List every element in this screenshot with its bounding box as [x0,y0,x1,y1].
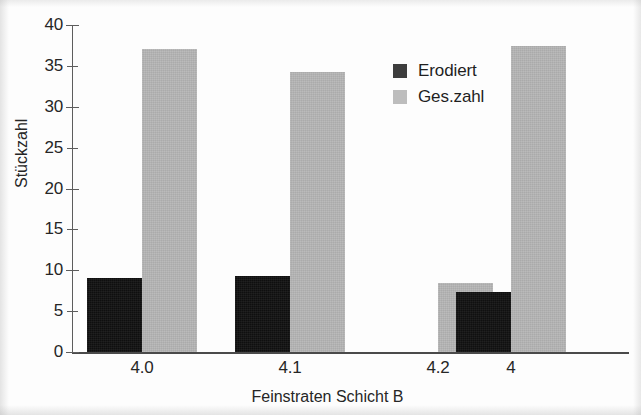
y-axis-tick-label: 30 [44,97,63,117]
y-axis-tick-label: 5 [54,301,63,321]
legend-label: Ges.zahl [418,87,484,107]
x-axis-title: Feinstraten Schicht B [0,388,641,406]
x-axis-tick-label: 4.2 [426,358,449,378]
x-axis-title-text: Feinstraten Schicht B [251,388,403,405]
plot-area [72,25,629,352]
legend-item-ges-zahl: Ges.zahl [393,84,484,110]
bar-ges-zahl-4.0 [142,49,197,352]
legend-label: Erodiert [418,61,477,81]
legend-swatch-dark [393,64,407,78]
legend-item-erodiert: Erodiert [393,58,484,84]
bar-erodiert-4.0 [87,278,142,352]
bar-erodiert-4.1 [235,276,290,352]
x-axis-tick-label: 4.0 [130,358,153,378]
bar-ges-zahl-4.1 [290,72,345,352]
chart-legend: ErodiertGes.zahl [393,58,484,110]
x-axis-tick-label: 4 [506,358,515,378]
y-axis-tick-label: 0 [54,342,63,362]
bar-chart-figure: Stückzahl 0510152025303540 4.04.14.24 Fe… [0,0,641,415]
y-axis-tick-label: 10 [44,260,63,280]
x-axis-tick-label: 4.1 [278,358,301,378]
y-axis-tick-label: 40 [44,15,63,35]
y-axis-tick-label: 20 [44,179,63,199]
y-axis-tick-label: 25 [44,138,63,158]
legend-swatch-light [393,90,407,104]
y-axis-title: Stückzahl [13,119,31,188]
y-axis-tick-label: 15 [44,219,63,239]
y-axis-tick-label: 35 [44,56,63,76]
y-axis-tick-mark [66,352,79,353]
bar-erodiert-4 [456,292,511,352]
x-axis-line [72,352,629,354]
bar-ges-zahl-4 [511,46,566,352]
